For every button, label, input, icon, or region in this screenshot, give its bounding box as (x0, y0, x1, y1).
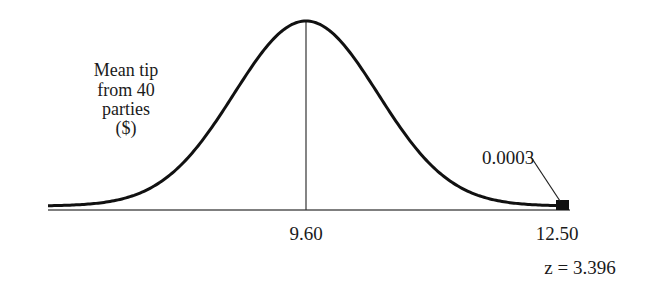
shaded-tail (556, 200, 569, 210)
x-tick-mean: 9.60 (289, 223, 322, 244)
leader-line (531, 157, 560, 201)
y-label-line-1: Mean tip (94, 60, 159, 80)
x-tick-cutoff: 12.50 (536, 223, 579, 244)
y-label-line-4: ($) (116, 118, 137, 139)
y-label-line-2: from 40 (97, 80, 155, 100)
z-score-label: z = 3.396 (544, 257, 615, 278)
y-label-line-3: parties (102, 99, 150, 119)
tail-probability-label: 0.0003 (482, 147, 534, 168)
normal-curve-chart: Mean tip from 40 parties ($) 9.60 12.50 … (0, 0, 649, 290)
